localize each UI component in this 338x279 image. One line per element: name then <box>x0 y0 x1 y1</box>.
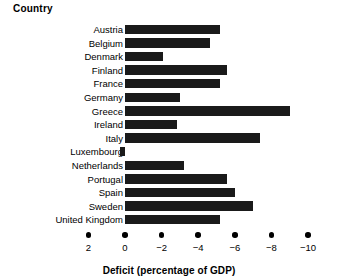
bar-row: Belgium <box>0 37 338 51</box>
bar-category-label: Austria <box>3 23 123 37</box>
bar-row: Germany <box>0 91 338 105</box>
tick-dot-icon <box>122 232 128 238</box>
category-axis-header: Country <box>13 3 53 14</box>
bar <box>125 174 227 184</box>
bar-row: Ireland <box>0 118 338 132</box>
bar <box>125 79 220 89</box>
bar-row: Italy <box>0 132 338 146</box>
x-axis-tick-label: 0 <box>113 242 137 253</box>
x-axis-tick-label: −2 <box>150 242 174 253</box>
bar-row: Austria <box>0 23 338 37</box>
bar <box>125 65 227 75</box>
bar-row: Sweden <box>0 200 338 214</box>
x-axis-tick: 0 <box>113 232 137 253</box>
bar <box>125 38 210 48</box>
bar-row: United Kingdom <box>0 213 338 227</box>
x-axis-tick-label: −4 <box>186 242 210 253</box>
bar-category-label: Finland <box>3 64 123 78</box>
tick-dot-icon <box>232 232 238 238</box>
x-axis-tick-label: 2 <box>76 242 100 253</box>
bar <box>125 215 220 225</box>
bar-category-label: Italy <box>3 132 123 146</box>
bar-row: Greece <box>0 105 338 119</box>
bar-row: Spain <box>0 186 338 200</box>
bar-category-label: Portugal <box>3 173 123 187</box>
bar-row: Luxembourg <box>0 145 338 159</box>
bar-category-label: Sweden <box>3 200 123 214</box>
x-axis-tick-label: −6 <box>223 242 247 253</box>
x-axis-tick: 2 <box>76 232 100 253</box>
x-axis-tick: −8 <box>259 232 283 253</box>
bar <box>125 25 220 35</box>
x-axis-tick-label: −10 <box>296 242 320 253</box>
x-axis-tick: −2 <box>150 232 174 253</box>
tick-dot-icon <box>86 232 92 238</box>
tick-dot-icon <box>195 232 201 238</box>
bar <box>125 52 163 62</box>
bar-row: Finland <box>0 64 338 78</box>
tick-dot-icon <box>159 232 165 238</box>
bar-category-label: Luxembourg <box>3 145 123 159</box>
bar <box>125 120 177 130</box>
x-axis-tick-label: −8 <box>259 242 283 253</box>
bar <box>120 147 125 157</box>
bar <box>125 201 253 211</box>
x-axis-tick: −10 <box>296 232 320 253</box>
bar <box>125 161 184 171</box>
bar-category-label: Belgium <box>3 37 123 51</box>
bar-category-label: France <box>3 77 123 91</box>
bar-category-label: Greece <box>3 105 123 119</box>
bar <box>125 133 260 143</box>
bar-category-label: Denmark <box>3 50 123 64</box>
x-axis: Deficit (percentage of GDP) 20−2−4−6−8−1… <box>0 232 338 279</box>
bar <box>125 106 290 116</box>
bar-row: France <box>0 77 338 91</box>
bar-category-label: United Kingdom <box>3 213 123 227</box>
bar-row: Denmark <box>0 50 338 64</box>
bar <box>125 93 180 103</box>
x-axis-tick: −4 <box>186 232 210 253</box>
bar-category-label: Netherlands <box>3 159 123 173</box>
deficit-bar-chart: Country AustriaBelgiumDenmarkFinlandFran… <box>0 0 338 279</box>
bar-row: Portugal <box>0 173 338 187</box>
tick-dot-icon <box>305 232 311 238</box>
bar-category-label: Germany <box>3 91 123 105</box>
bar-row: Netherlands <box>0 159 338 173</box>
x-axis-tick: −6 <box>223 232 247 253</box>
tick-dot-icon <box>269 232 275 238</box>
bar-category-label: Spain <box>3 186 123 200</box>
bar-category-label: Ireland <box>3 118 123 132</box>
bar <box>125 188 235 198</box>
x-axis-title: Deficit (percentage of GDP) <box>0 265 338 276</box>
plot-area: AustriaBelgiumDenmarkFinlandFranceGerman… <box>0 22 338 226</box>
